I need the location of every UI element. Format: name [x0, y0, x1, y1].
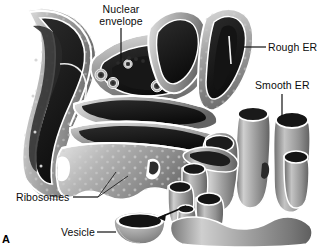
panel-letter: A: [2, 233, 10, 245]
label-rough-er: Rough ER: [268, 41, 317, 53]
label-nuclear-envelope: Nuclear envelope: [84, 3, 158, 27]
er-figure: Nuclear envelope Rough ER Smooth ER Ribo…: [0, 0, 319, 249]
label-smooth-er: Smooth ER: [255, 79, 310, 91]
er-illustration: [0, 0, 319, 249]
label-vesicle: Vesicle: [61, 226, 95, 238]
label-ribosomes: Ribosomes: [16, 191, 69, 203]
